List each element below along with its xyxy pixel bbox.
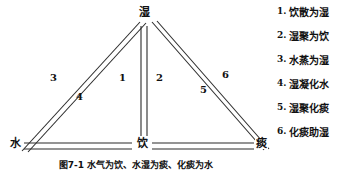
node-label-shui: 水 xyxy=(9,138,22,149)
node-label-shi: 湿 xyxy=(138,7,151,18)
legend-item-label: 湿凝化水 xyxy=(289,76,329,91)
edge-number-2: 2 xyxy=(156,73,163,83)
edge-number-5: 5 xyxy=(200,85,207,95)
edge-line-right-outer xyxy=(152,22,264,150)
node-label-tan: 痰 xyxy=(255,138,268,149)
legend-item: 5. 湿聚化痰 xyxy=(277,100,351,114)
legend-item-label: 水蒸为湿 xyxy=(289,52,329,67)
edge-line-right-inner xyxy=(157,21,269,149)
legend-item: 3. 水蒸为湿 xyxy=(277,52,351,66)
legend-item-index: 3. xyxy=(277,54,286,64)
legend-item-index: 6. xyxy=(277,126,286,136)
relationship-diagram: 湿 水 饮 痰 1 2 3 4 5 6 xyxy=(0,0,272,158)
legend-item-label: 饮散为湿 xyxy=(289,4,329,19)
legend-item-index: 4. xyxy=(277,78,286,88)
diagram-lines xyxy=(0,0,272,158)
legend-item-index: 5. xyxy=(277,102,286,112)
legend-item: 1. 饮散为湿 xyxy=(277,4,351,18)
legend-item: 2. 湿聚为饮 xyxy=(277,28,351,42)
legend-item-label: 湿聚化痰 xyxy=(289,100,329,115)
edge-line-left-outer xyxy=(22,22,140,151)
legend-item: 6. 化痰助湿 xyxy=(277,124,351,138)
legend-item: 4. 湿凝化水 xyxy=(277,76,351,90)
edge-number-1: 1 xyxy=(119,73,126,83)
figure-root: 湿 水 饮 痰 1 2 3 4 5 6 图7-1 水气为饮、水湿为痰、化痰为水 … xyxy=(0,0,351,171)
legend-item-label: 湿聚为饮 xyxy=(289,28,329,43)
edge-number-6: 6 xyxy=(222,70,229,80)
figure-caption: 图7-1 水气为饮、水湿为痰、化痰为水 xyxy=(0,160,272,171)
legend-list: 1. 饮散为湿 2. 湿聚为饮 3. 水蒸为湿 4. 湿凝化水 5. 湿聚化痰 … xyxy=(277,0,351,171)
legend-item-index: 2. xyxy=(277,30,286,40)
edge-number-3: 3 xyxy=(50,73,57,83)
edge-line-left-inner xyxy=(28,23,146,152)
legend-item-index: 1. xyxy=(277,6,286,16)
node-label-yin: 饮 xyxy=(136,138,149,149)
edge-number-4: 4 xyxy=(76,92,83,102)
legend-item-label: 化痰助湿 xyxy=(289,124,329,139)
